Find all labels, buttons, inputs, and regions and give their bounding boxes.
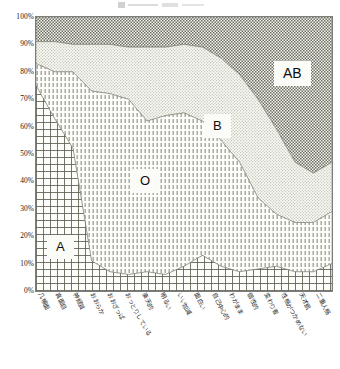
x-axis-tick: 変わり者 <box>262 292 279 316</box>
region-label-b: B <box>204 114 231 138</box>
title-mark-2 <box>128 4 158 6</box>
y-axis-tick: 100% <box>16 12 34 21</box>
x-axis-tick: おおらか <box>88 292 105 316</box>
title-mark-3 <box>162 3 178 7</box>
region-label-o: O <box>131 169 159 193</box>
x-axis-tick: 面白い <box>193 292 207 311</box>
y-axis-tick: 10% <box>20 258 34 267</box>
x-axis-tick: 明るい <box>158 292 172 311</box>
y-axis-tick: 90% <box>20 39 34 48</box>
x-axis-tick: 個性的 <box>245 292 259 311</box>
x-axis-tick: 楽天的 <box>140 292 154 311</box>
x-axis-tick: 神経質 <box>71 292 85 311</box>
blood-type-stacked-area-chart: 100%90%80%70%60%50%40%30%20%10%0% <box>0 0 340 369</box>
title-mark-4 <box>182 4 204 6</box>
region-label-ab: AB <box>274 61 311 86</box>
y-axis-tick: 30% <box>20 203 34 212</box>
y-axis-tick: 20% <box>20 231 34 240</box>
title-strip <box>118 1 228 9</box>
x-axis-tick: 几帳面 <box>36 292 50 311</box>
title-mark-1 <box>118 2 125 8</box>
region-label-a: A <box>47 235 74 259</box>
x-axis-tick: わがまま <box>228 292 245 316</box>
y-axis-tick: 40% <box>20 176 34 185</box>
x-axis-tick: 天才肌 <box>297 292 311 311</box>
area-layers <box>36 17 332 291</box>
x-axis-tick: 真面目 <box>53 292 67 311</box>
x-axis-tick: おおざっぱ <box>106 292 126 321</box>
stacked-area-svg <box>36 17 332 291</box>
x-axis: 几帳面真面目神経質おおらかおおざっぱおっとりしている楽天的明るいいい加減面白い自… <box>0 292 340 369</box>
y-axis-tick: 60% <box>20 121 34 130</box>
x-axis-tick: いい加減 <box>175 292 192 316</box>
plot-area: A O B AB <box>35 16 333 292</box>
y-axis-tick: 70% <box>20 94 34 103</box>
y-axis-tick: 80% <box>20 66 34 75</box>
y-axis-tick: 50% <box>20 149 34 158</box>
x-axis-tick: 二重人格 <box>315 292 332 316</box>
